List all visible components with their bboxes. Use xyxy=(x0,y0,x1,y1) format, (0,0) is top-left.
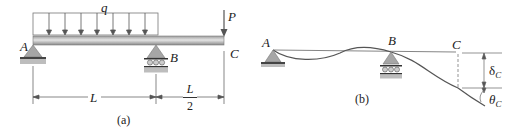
diagram-graphics xyxy=(0,0,515,131)
support-b-label: B xyxy=(170,51,178,64)
overhang-numerator: L xyxy=(187,82,194,96)
theta-subscript: C xyxy=(495,99,501,109)
end-c-label: C xyxy=(230,47,239,60)
support-a-label: A xyxy=(20,40,28,53)
point-load-arrow-p xyxy=(221,10,228,37)
support-a-label-b: A xyxy=(262,36,270,49)
delta-subscript: C xyxy=(495,70,501,80)
pin-support-a-b xyxy=(261,50,285,67)
overhang-dimension-label: L 2 xyxy=(183,83,197,112)
fraction-bar xyxy=(183,97,197,98)
deflection-label: δC xyxy=(489,64,501,80)
distributed-load-label: q xyxy=(101,1,108,14)
caption-b: (b) xyxy=(355,93,369,105)
caption-a: (a) xyxy=(117,114,130,126)
distributed-load-q xyxy=(33,13,158,35)
deflected-shape xyxy=(273,48,485,106)
end-c-label-b: C xyxy=(452,38,461,51)
beam-figure: q P A B C L L 2 (a) A B C δC θC (b) xyxy=(0,0,515,131)
roller-support-b-b xyxy=(380,52,402,79)
support-b-label-b: B xyxy=(388,34,396,47)
span-ab-dimension-label: L xyxy=(90,91,97,104)
overhang-denominator: 2 xyxy=(187,99,193,113)
beam-a xyxy=(33,36,224,45)
rotation-label: θC xyxy=(489,93,501,109)
undeformed-beam-line xyxy=(273,50,456,52)
point-load-label: P xyxy=(228,10,236,23)
roller-support-b xyxy=(144,45,168,73)
